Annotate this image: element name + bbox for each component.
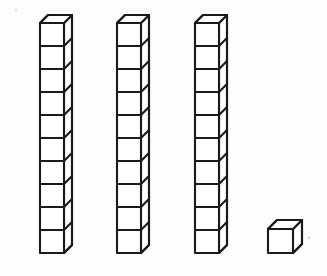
rod-2-unit-4 [117,161,141,184]
speck-1 [308,237,311,240]
rod-2-unit-6 [117,115,141,138]
unit-cube-1 [268,220,302,253]
rod-3-unit-7 [195,92,219,115]
blocks-layer [40,15,302,253]
rod-2-unit-5 [117,138,141,161]
rod-3-unit-9 [195,46,219,69]
rod-2-unit-3 [117,184,141,207]
rod-3-unit-3 [195,184,219,207]
blocks-canvas [0,0,327,276]
rod-3 [195,15,227,253]
rod-1-unit-4 [40,161,64,184]
rod-1-unit-1 [40,230,64,253]
rod-3-unit-4 [195,161,219,184]
rod-3-unit-8 [195,69,219,92]
rod-2-unit-9 [117,46,141,69]
rod-1 [40,15,72,253]
unit-cube-1-unit-1 [268,229,293,253]
speck-2 [15,9,17,11]
rod-3-unit-10 [195,23,219,46]
rod-3-unit-2 [195,207,219,230]
rod-3-unit-6 [195,115,219,138]
rod-1-unit-5 [40,138,64,161]
rod-2-unit-10 [117,23,141,46]
rod-1-unit-10 [40,23,64,46]
rod-2-unit-7 [117,92,141,115]
rod-1-unit-3 [40,184,64,207]
rod-1-unit-9 [40,46,64,69]
base-ten-blocks-figure [0,0,327,276]
rod-2-unit-1 [117,230,141,253]
rod-1-unit-2 [40,207,64,230]
rod-2 [117,15,149,253]
rod-1-unit-8 [40,69,64,92]
rod-1-unit-6 [40,115,64,138]
rod-3-unit-1 [195,230,219,253]
rod-2-unit-2 [117,207,141,230]
rod-2-unit-8 [117,69,141,92]
rod-1-unit-7 [40,92,64,115]
rod-3-unit-5 [195,138,219,161]
